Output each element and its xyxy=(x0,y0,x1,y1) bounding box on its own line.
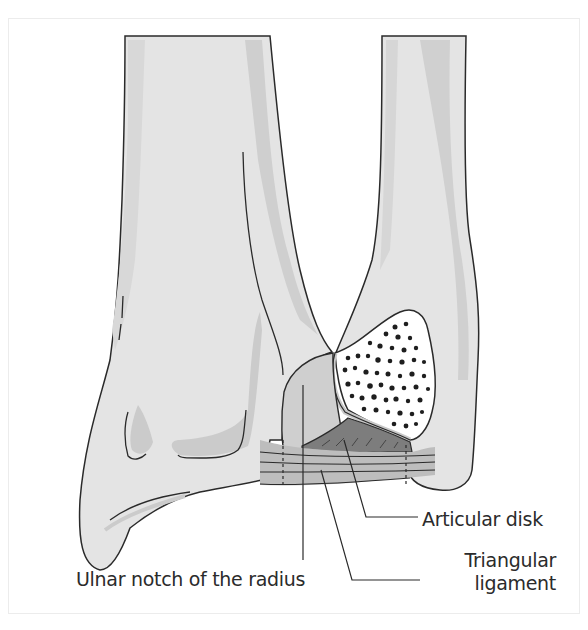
label-triangular-line1: Triangular xyxy=(465,549,556,572)
label-articular-disk: Articular disk xyxy=(422,508,543,531)
label-ulnar-notch: Ulnar notch of the radius xyxy=(76,568,305,591)
radius-bone xyxy=(80,36,332,570)
wrist-anatomy-illustration xyxy=(0,0,588,630)
leader-triangular-ligament xyxy=(321,470,420,580)
label-triangular-ligament: Triangular ligament xyxy=(465,549,556,595)
label-triangular-line2: ligament xyxy=(465,572,556,595)
